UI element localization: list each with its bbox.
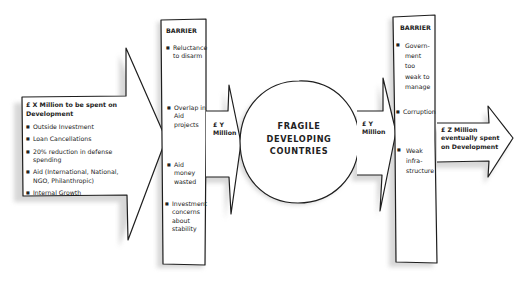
source-item: Outside Investment <box>26 123 130 131</box>
source-item: Internal Growth <box>26 189 130 197</box>
flow-1-amount: £ Y <box>213 121 239 129</box>
source-list: Outside Investment Loan Cancellations 20… <box>26 123 130 198</box>
center-line-1: FRAGILE <box>249 120 349 133</box>
barrier-1-item: Overlap in Aid projects <box>167 104 207 133</box>
source-item: 20% reduction in defense spending <box>26 148 130 165</box>
barrier-item: Reluctance to disarm <box>166 44 207 61</box>
barrier-item: Govern- ment too weak to manage <box>396 41 432 92</box>
flow-1-unit: Million <box>213 129 239 137</box>
outcome-line-2: eventually spent <box>441 134 501 142</box>
outcome-line-1: £ Z Million <box>441 126 501 134</box>
source-box: £ X Million to be spent on Development O… <box>26 101 130 202</box>
source-item: Aid (International, National, NGO, Phila… <box>26 168 130 185</box>
barrier-1-item: Investment concerns about stability <box>165 200 207 237</box>
outcome-line-3: on Development <box>441 143 501 151</box>
outcome-label: £ Z Million eventually spent on Developm… <box>441 126 501 151</box>
barrier-2-item: Corruption <box>396 108 438 120</box>
center-label: FRAGILE DEVELOPING COUNTRIES <box>249 120 349 158</box>
flow-2-amount: £ Y <box>362 120 390 128</box>
source-title: £ X Million to be spent on Development <box>26 101 130 118</box>
barrier-item: Aid money wasted <box>167 161 207 186</box>
barrier-2: BARRIER <box>400 24 436 33</box>
barrier-1-item: Reluctance to disarm <box>166 44 207 65</box>
barrier-2-item: Govern- ment too weak to manage <box>396 41 432 96</box>
barrier-2-title: BARRIER <box>400 24 436 33</box>
barrier-2-item: Weak infra- structure <box>397 146 433 181</box>
barrier-1: BARRIER <box>166 27 206 43</box>
barrier-item: Corruption <box>396 108 438 116</box>
source-item: Loan Cancellations <box>26 135 130 143</box>
barrier-1-item: Aid money wasted <box>167 161 207 190</box>
barrier-item: Weak infra- structure <box>397 146 433 177</box>
barrier-item: Investment concerns about stability <box>165 200 207 233</box>
flow-2-unit: Million <box>362 128 390 136</box>
center-line-3: COUNTRIES <box>249 145 349 158</box>
barrier-1-title: BARRIER <box>166 27 206 36</box>
flow-1-label: £ Y Million <box>213 121 239 138</box>
center-line-2: DEVELOPING <box>249 133 349 146</box>
barrier-item: Overlap in Aid projects <box>167 104 207 129</box>
flow-2-label: £ Y Million <box>362 120 390 137</box>
